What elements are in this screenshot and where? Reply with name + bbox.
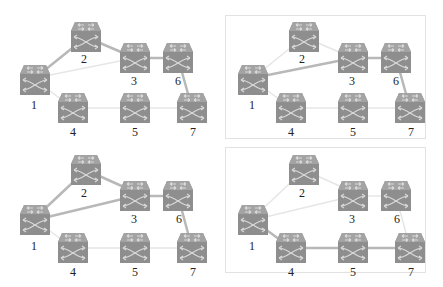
switch-icon-5 xyxy=(338,233,368,263)
switch-icon-7 xyxy=(177,233,207,263)
node-label-2: 2 xyxy=(299,52,305,66)
node-label-3: 3 xyxy=(131,212,137,226)
switch-icon-5 xyxy=(120,233,150,263)
node-label-5: 5 xyxy=(350,125,356,139)
node-label-5: 5 xyxy=(132,125,138,139)
node-label-2: 2 xyxy=(81,52,87,66)
switch-icon-2 xyxy=(289,22,319,52)
node-label-7: 7 xyxy=(190,125,196,139)
node-label-1: 1 xyxy=(249,239,255,253)
switch-icon-7 xyxy=(177,93,207,123)
switch-icon-4 xyxy=(276,93,306,123)
node-label-3: 3 xyxy=(349,74,355,88)
switch-icon-1 xyxy=(238,65,268,95)
switch-icon-7 xyxy=(395,93,425,123)
switch-icon-1 xyxy=(20,205,50,235)
network-topology-diagram: 1 2 3 4 5 6 7 1 2 3 4 5 6 7 xyxy=(0,0,443,287)
node-label-6: 6 xyxy=(176,212,182,226)
node-label-6: 6 xyxy=(393,74,399,88)
node-label-2: 2 xyxy=(81,186,87,200)
node-label-4: 4 xyxy=(288,125,294,139)
switch-icon-6 xyxy=(381,181,411,211)
switch-icon-2 xyxy=(71,155,101,185)
switch-icon-1 xyxy=(20,65,50,95)
node-label-1: 1 xyxy=(249,98,255,112)
node-label-7: 7 xyxy=(408,265,414,279)
switch-icon-4 xyxy=(58,93,88,123)
switch-icon-3 xyxy=(338,181,368,211)
node-label-3: 3 xyxy=(349,212,355,226)
switch-icon-3 xyxy=(120,181,150,211)
node-label-1: 1 xyxy=(31,98,37,112)
switch-icon-1 xyxy=(238,205,268,235)
switch-icon-6 xyxy=(381,43,411,73)
switch-icon-4 xyxy=(276,233,306,263)
node-label-7: 7 xyxy=(408,125,414,139)
node-label-3: 3 xyxy=(131,74,137,88)
switch-icon-7 xyxy=(395,233,425,263)
switch-icon-4 xyxy=(58,233,88,263)
switch-icon-3 xyxy=(338,43,368,73)
topology-top-right: 1 2 3 4 5 6 7 xyxy=(238,22,425,139)
topology-bottom-left: 1 2 3 4 5 6 7 xyxy=(20,155,207,279)
switch-icon-6 xyxy=(163,181,193,211)
node-label-4: 4 xyxy=(70,125,76,139)
switch-icon-2 xyxy=(289,155,319,185)
switch-icon-5 xyxy=(120,93,150,123)
node-label-5: 5 xyxy=(350,265,356,279)
node-label-1: 1 xyxy=(31,239,37,253)
topology-bottom-right: 1 2 3 4 5 6 7 xyxy=(238,155,425,279)
switch-icon-6 xyxy=(163,43,193,73)
switch-icon-3 xyxy=(120,43,150,73)
node-label-6: 6 xyxy=(175,74,181,88)
switch-icon-2 xyxy=(71,22,101,52)
switch-icon-5 xyxy=(338,93,368,123)
node-label-6: 6 xyxy=(394,212,400,226)
figure-caption xyxy=(8,276,308,284)
topology-top-left: 1 2 3 4 5 6 7 xyxy=(20,22,207,139)
node-label-2: 2 xyxy=(299,186,305,200)
